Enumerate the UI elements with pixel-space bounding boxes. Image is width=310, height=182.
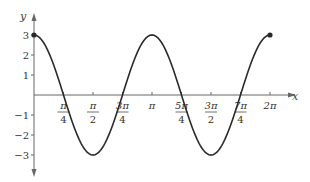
y-tick-label: −2 (14, 130, 29, 141)
x-tick-denominator: 4 (178, 114, 184, 125)
x-tick-denominator: 4 (60, 114, 66, 125)
y-tick-label: 1 (23, 70, 29, 81)
y-axis-down-arrow-icon (32, 169, 37, 177)
y-tick-label: −3 (14, 150, 29, 161)
y-axis-label: y (19, 10, 27, 23)
y-tick-label: 2 (23, 50, 29, 61)
x-axis-ticks: π4π23π4π5π43π27π42π (58, 92, 277, 125)
x-tick-denominator: 2 (208, 114, 214, 125)
x-tick-numerator: 3π (205, 100, 218, 111)
cosine-chart: 321−1−2−3 π4π23π4π5π43π27π42π y x (0, 0, 310, 182)
x-tick-label: π (148, 100, 156, 111)
y-axis-ticks: 321−1−2−3 (14, 30, 34, 161)
x-axis-label: x (292, 90, 299, 103)
y-tick-label: 3 (23, 30, 29, 41)
y-tick-label: −1 (14, 110, 29, 121)
endpoint-dot (267, 32, 272, 37)
x-tick-numerator: π (89, 100, 97, 111)
x-tick-denominator: 4 (119, 114, 125, 125)
endpoint-dot (31, 32, 36, 37)
axes (32, 13, 297, 177)
y-axis-up-arrow-icon (32, 13, 37, 21)
x-tick-denominator: 2 (90, 114, 96, 125)
x-tick-denominator: 4 (237, 114, 243, 125)
x-tick-label: 2π (263, 100, 277, 111)
